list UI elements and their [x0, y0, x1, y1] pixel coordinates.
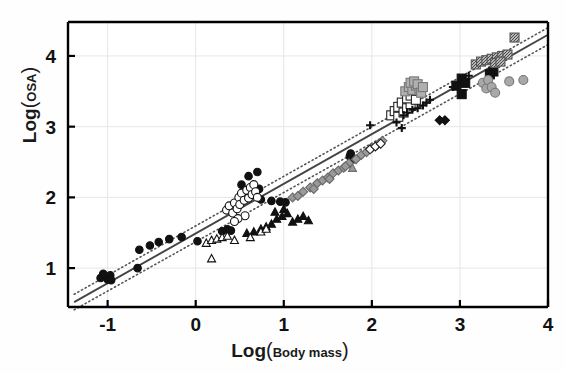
data-point	[230, 217, 238, 225]
y-axis-label-sub: OSA	[24, 74, 39, 102]
y-tick-label: 4	[45, 46, 56, 67]
data-point	[496, 57, 505, 66]
y-axis-label-main: Log	[19, 108, 40, 143]
y-tick-label: 1	[45, 258, 56, 279]
y-axis-label: Log(OSA)	[18, 40, 44, 170]
data-point	[245, 172, 253, 180]
data-point	[489, 67, 498, 76]
x-tick-label: 1	[278, 314, 289, 335]
data-point	[510, 33, 519, 42]
data-point	[146, 242, 154, 250]
data-point	[491, 88, 500, 97]
data-point	[178, 233, 186, 241]
data-point	[194, 237, 202, 245]
data-point	[254, 168, 262, 176]
data-point	[136, 246, 144, 254]
x-axis-label-open-paren: (	[266, 339, 273, 361]
x-axis-label: Log(Body mass)	[175, 339, 405, 362]
x-tick-label: 4	[543, 314, 554, 335]
data-point	[418, 83, 427, 92]
x-tick-label: 3	[455, 314, 466, 335]
data-point	[253, 193, 261, 201]
data-point	[166, 235, 174, 243]
data-point	[282, 199, 290, 207]
x-tick-label: -1	[99, 314, 116, 335]
data-point	[505, 77, 514, 86]
data-point	[155, 238, 163, 246]
data-point	[268, 197, 276, 205]
x-axis-label-close-paren: )	[342, 339, 349, 361]
data-point	[107, 276, 115, 284]
plot-canvas: -1012341234	[0, 0, 565, 374]
x-tick-label: 0	[190, 314, 201, 335]
x-tick-label: 2	[367, 314, 378, 335]
data-point	[134, 264, 142, 272]
y-axis-label-close-paren: )	[18, 67, 40, 74]
data-point	[519, 75, 528, 84]
y-tick-label: 2	[45, 187, 56, 208]
scatter-plot-figure: -1012341234 Log(OSA) Log(Body mass)	[0, 0, 565, 374]
y-tick-label: 3	[45, 117, 56, 138]
y-axis-label-open-paren: (	[18, 102, 40, 109]
x-axis-label-main: Log	[231, 340, 266, 361]
x-axis-label-sub: Body mass	[273, 345, 342, 360]
data-point	[457, 90, 466, 99]
